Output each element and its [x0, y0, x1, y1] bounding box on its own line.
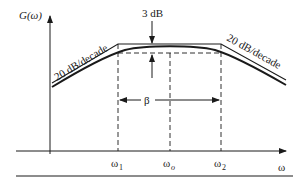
y-axis: G(ω): [19, 9, 50, 154]
y-axis-label: G(ω): [19, 9, 42, 22]
svg-text:o: o: [171, 163, 175, 172]
frequency-markers: [118, 44, 221, 151]
tick-wo: ω o: [163, 157, 175, 172]
tick-w1: ω 1: [111, 157, 123, 172]
bandwidth-annotation: β: [120, 94, 219, 106]
gap-annotation: 3 dB: [142, 7, 163, 78]
gap-label: 3 dB: [142, 7, 163, 19]
svg-text:ω: ω: [111, 157, 118, 169]
left-slope-label: 20 dB/decade: [52, 41, 110, 82]
svg-text:ω: ω: [163, 157, 170, 169]
bandpass-bode-diagram: G(ω) ω 3 dB 20 dB/decade 20 dB/decade β …: [0, 0, 297, 179]
x-axis: ω: [16, 151, 286, 173]
tick-w2: ω 2: [214, 157, 226, 172]
svg-text:ω: ω: [214, 157, 221, 169]
x-axis-label: ω: [278, 161, 285, 173]
bandwidth-label: β: [144, 94, 150, 106]
svg-text:2: 2: [222, 163, 226, 172]
svg-text:1: 1: [119, 163, 123, 172]
